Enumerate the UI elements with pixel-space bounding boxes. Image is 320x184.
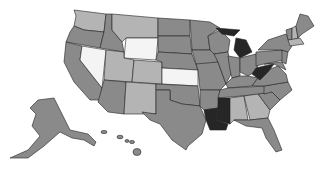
state-nm[interactable] (124, 82, 156, 114)
state-ne[interactable] (156, 52, 198, 70)
us-choropleth-map (0, 0, 320, 184)
state-sd[interactable] (158, 36, 192, 54)
state-hi[interactable] (101, 130, 141, 155)
state-ar[interactable] (200, 90, 220, 110)
state-ms[interactable] (216, 98, 230, 124)
state-co[interactable] (132, 60, 162, 84)
state-wy[interactable] (124, 38, 158, 60)
state-me[interactable] (296, 14, 314, 38)
state-mi-lp[interactable] (234, 38, 252, 58)
state-fl[interactable] (234, 118, 282, 152)
state-ks[interactable] (162, 68, 198, 86)
state-nj[interactable] (282, 50, 288, 64)
state-ak[interactable] (10, 98, 96, 158)
state-nd[interactable] (158, 18, 190, 36)
state-ny[interactable] (258, 34, 292, 52)
